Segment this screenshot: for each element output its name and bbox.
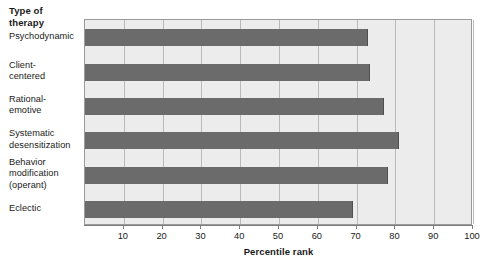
category-label-line: modification [9, 168, 85, 179]
category-label: Client-centered [9, 60, 85, 82]
plot-area [84, 19, 472, 225]
y-axis-title-line: therapy [9, 17, 81, 29]
gridline-x-50 [279, 20, 280, 224]
x-axis-tick-label: 20 [142, 231, 182, 241]
x-axis-tick-label: 30 [180, 231, 220, 241]
x-axis-tick [472, 225, 473, 229]
x-axis-tick [278, 225, 279, 229]
bar [85, 64, 370, 81]
category-label-line: (operant) [9, 180, 85, 191]
bar [85, 98, 384, 115]
y-axis-title: Type oftherapy [9, 5, 81, 28]
x-axis-tick-label: 50 [258, 231, 298, 241]
category-label-line: desensitization [9, 140, 85, 151]
category-label: Psychodynamic [9, 31, 85, 42]
x-axis-tick-label: 40 [219, 231, 259, 241]
x-axis-tick-label: 70 [336, 231, 376, 241]
x-axis-tick [433, 225, 434, 229]
category-label-line: Eclectic [9, 203, 85, 214]
category-label-column: PsychodynamicClient-centeredRational-emo… [9, 28, 83, 220]
category-label: Behaviormodification(operant) [9, 157, 85, 191]
bar-chart-figure: Type oftherapy PsychodynamicClient-cente… [0, 0, 495, 270]
category-label-line: emotive [9, 105, 85, 116]
gridline-x-40 [240, 20, 241, 224]
gridline-x-10 [124, 20, 125, 224]
x-axis-tick [239, 225, 240, 229]
bar [85, 132, 399, 149]
x-axis-tick [162, 225, 163, 229]
category-label: Eclectic [9, 203, 85, 214]
category-label-line: Client- [9, 60, 85, 71]
y-axis-title-line: Type of [9, 5, 81, 17]
x-axis-tick-label: 80 [374, 231, 414, 241]
x-axis-tick [317, 225, 318, 229]
x-axis-tick [394, 225, 395, 229]
bar [85, 201, 353, 218]
x-axis-title: Percentile rank [84, 246, 473, 257]
bar [85, 167, 388, 184]
x-axis-tick [356, 225, 357, 229]
gridline-x-90 [434, 20, 435, 224]
category-label-line: Psychodynamic [9, 31, 85, 42]
x-axis-tick-label: 10 [103, 231, 143, 241]
category-label-line: centered [9, 71, 85, 82]
x-axis-tick-label: 90 [413, 231, 453, 241]
category-label: Systematicdesensitization [9, 128, 85, 150]
x-axis-tick-label: 60 [297, 231, 337, 241]
x-axis-tick-label: 100 [452, 231, 492, 241]
x-axis-tick [200, 225, 201, 229]
gridline-x-80 [395, 20, 396, 224]
gridline-x-30 [201, 20, 202, 224]
category-label-line: Rational- [9, 94, 85, 105]
gridline-x-100 [473, 20, 474, 224]
category-label-line: Systematic [9, 128, 85, 139]
category-label: Rational-emotive [9, 94, 85, 116]
category-label-line: Behavior [9, 157, 85, 168]
bar [85, 29, 368, 46]
x-axis-tick [123, 225, 124, 229]
gridline-x-70 [357, 20, 358, 224]
gridline-x-20 [163, 20, 164, 224]
gridline-x-60 [318, 20, 319, 224]
